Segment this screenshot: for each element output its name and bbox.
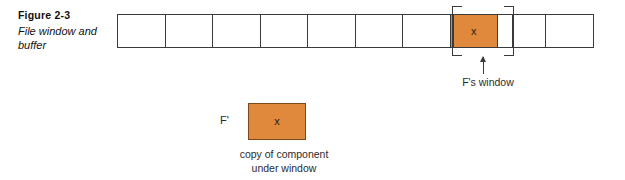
strip-cell[interactable] — [308, 15, 356, 47]
strip-cell[interactable] — [261, 15, 309, 47]
strip-cell-mark: x — [471, 26, 477, 37]
buffer-box: x — [248, 103, 306, 140]
strip-cell[interactable] — [498, 15, 546, 47]
buffer-caption-line-2: under window — [214, 161, 354, 175]
buffer-group: F' x copy of component under window — [214, 102, 354, 175]
strip-cell[interactable] — [118, 15, 166, 47]
strip-cell[interactable] — [546, 15, 594, 47]
file-strip: x — [117, 14, 594, 48]
figure-title: File window and buffer — [18, 24, 110, 52]
buffer-label: F' — [220, 115, 229, 126]
buffer-caption-line-1: copy of component — [214, 147, 354, 161]
window-annotation-label: F's window — [448, 76, 528, 88]
buffer-component-mark: x — [274, 116, 280, 127]
strip-cell[interactable] — [166, 15, 214, 47]
buffer-caption: copy of component under window — [214, 147, 354, 175]
figure-caption: Figure 2-3 File window and buffer — [18, 8, 110, 52]
strip-cell[interactable] — [403, 15, 451, 47]
strip-cell-highlighted[interactable]: x — [451, 15, 499, 47]
buffer-row: F' x — [214, 102, 354, 141]
strip-cell[interactable] — [356, 15, 404, 47]
window-arrow-up-icon — [483, 57, 484, 74]
strip-cell[interactable] — [213, 15, 261, 47]
figure-number: Figure 2-3 — [18, 8, 110, 22]
